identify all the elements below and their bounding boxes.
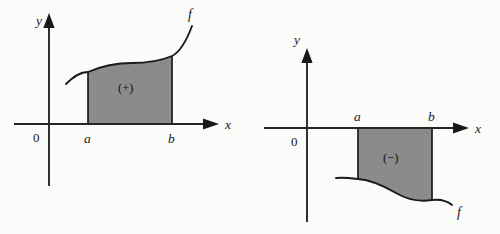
x-axis-label: x — [224, 117, 231, 132]
y-axis-arrow-icon — [43, 13, 54, 28]
negative-area-diagram: y x 0 a b f (−) — [250, 0, 500, 234]
function-label-f: f — [188, 7, 194, 22]
positive-sign-label: (+) — [118, 81, 133, 95]
lower-limit-label-a: a — [354, 109, 361, 124]
origin-label: 0 — [291, 134, 298, 149]
positive-area-diagram: y x 0 a b f (+) — [0, 0, 250, 234]
x-axis-label: x — [474, 121, 481, 136]
panel-positive-area: y x 0 a b f (+) — [0, 0, 250, 234]
origin-label: 0 — [33, 130, 40, 145]
x-axis-arrow-icon — [453, 122, 469, 133]
y-axis-arrow-icon — [301, 48, 312, 63]
integral-sign-figure: y x 0 a b f (+) y x 0 — [0, 0, 500, 234]
upper-limit-label-b: b — [428, 109, 435, 124]
panel-negative-area: y x 0 a b f (−) — [250, 0, 500, 234]
negative-sign-label: (−) — [383, 151, 398, 165]
y-axis-label: y — [292, 32, 300, 47]
function-label-f: f — [457, 205, 463, 220]
y-axis-label: y — [34, 13, 42, 28]
upper-limit-label-b: b — [168, 131, 175, 146]
lower-limit-label-a: a — [84, 131, 91, 146]
x-axis-arrow-icon — [203, 118, 219, 129]
